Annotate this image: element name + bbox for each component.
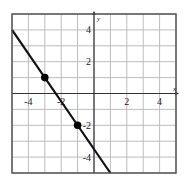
y-tick-label: -2: [83, 120, 91, 131]
coordinate-plane: -4-22442-2-4 x y: [0, 0, 186, 183]
x-tick-label: -4: [24, 96, 32, 107]
y-tick-label: -4: [83, 152, 91, 163]
y-tick-label: 2: [86, 56, 91, 67]
x-tick-label: 4: [157, 96, 162, 107]
y-tick-label: 4: [86, 24, 91, 35]
data-point: [41, 74, 49, 82]
y-axis-label: y: [96, 15, 101, 23]
data-point: [74, 122, 82, 130]
x-tick-label: 2: [124, 96, 129, 107]
axes: [12, 11, 179, 173]
